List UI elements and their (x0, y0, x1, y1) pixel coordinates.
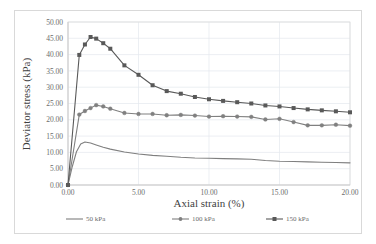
x-axis-title: Axial strain (%) (174, 197, 245, 210)
y-tick-label: 45.00 (46, 34, 63, 43)
y-tick-label: 5.00 (50, 164, 63, 173)
legend-label: 150 kPa (286, 215, 310, 223)
y-tick-label: 35.00 (46, 67, 63, 76)
y-tick-label: 10.00 (46, 148, 63, 157)
y-tick-label: 20.00 (46, 115, 63, 124)
y-tick-label: 15.00 (46, 132, 63, 141)
y-tick-label: 25.00 (46, 99, 63, 108)
y-tick-label: 50.00 (46, 18, 63, 27)
x-tick-label: 15.00 (271, 188, 288, 197)
x-tick-label: 5.00 (132, 188, 145, 197)
legend-label: 50 kPa (86, 215, 106, 223)
chart-legend: 50 kPa100 kPa150 kPa (66, 215, 310, 223)
legend-item-50-kpa[interactable]: 50 kPa (66, 215, 106, 223)
chart-figure: 0.005.0010.0015.0020.0025.0030.0035.0040… (0, 0, 376, 244)
deviator-stress-vs-axial-strain-chart: 0.005.0010.0015.0020.0025.0030.0035.0040… (0, 0, 376, 244)
x-tick-label: 10.00 (201, 188, 218, 197)
x-tick-label: 0.00 (61, 188, 74, 197)
legend-label: 100 kPa (192, 215, 216, 223)
legend-item-150-kpa[interactable]: 150 kPa (266, 215, 310, 223)
y-tick-label: 40.00 (46, 50, 63, 59)
y-axis-title: Deviator stress (kPa) (20, 58, 33, 151)
legend-item-100-kpa[interactable]: 100 kPa (172, 215, 216, 223)
x-tick-label: 20.00 (342, 188, 359, 197)
y-tick-label: 30.00 (46, 83, 63, 92)
grid-layer (68, 22, 350, 185)
